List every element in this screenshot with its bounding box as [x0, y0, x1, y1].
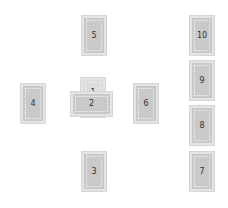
card-label: 9: [192, 77, 212, 85]
card-label: 6: [136, 100, 156, 108]
card-label: 2: [73, 100, 110, 108]
card-5[interactable]: 5: [82, 16, 106, 55]
card-10[interactable]: 10: [190, 16, 214, 55]
card-label: 4: [23, 100, 43, 108]
card-9[interactable]: 9: [190, 61, 214, 100]
card-3[interactable]: 3: [82, 152, 106, 191]
card-label: 10: [192, 32, 212, 40]
card-6[interactable]: 6: [134, 84, 158, 123]
card-7[interactable]: 7: [190, 152, 214, 191]
card-label: 3: [84, 168, 104, 176]
card-2[interactable]: 2: [71, 92, 112, 116]
card-8[interactable]: 8: [190, 106, 214, 145]
card-label: 5: [84, 32, 104, 40]
card-label: 8: [192, 122, 212, 130]
card-label: 7: [192, 168, 212, 176]
card-4[interactable]: 4: [21, 84, 45, 123]
